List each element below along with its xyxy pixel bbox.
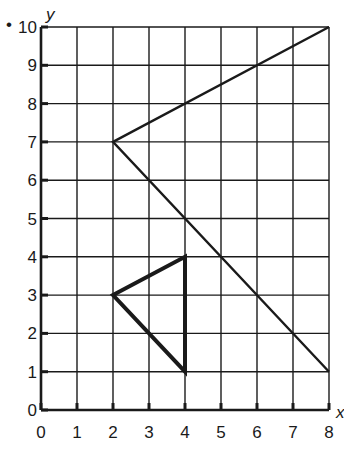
y-tick-label: 1 [28,363,37,382]
x-tick-label: 2 [108,423,117,442]
y-tick-label: 9 [28,56,37,75]
x-axis-label: x [335,403,344,422]
y-tick-label: 0 [28,401,37,420]
coordinate-grid-chart: 012345678012345678910 • y x [0,0,344,452]
y-tick-label: 5 [28,210,37,229]
x-tick-label: 4 [180,423,189,442]
y-tick-label: 6 [28,171,37,190]
tick-labels: 012345678012345678910 [18,18,334,442]
x-tick-label: 0 [36,423,45,442]
x-tick-label: 6 [252,423,261,442]
x-tick-label: 3 [144,423,153,442]
y-tick-label: 8 [28,95,37,114]
y-tick-label: 10 [18,18,37,37]
bullet-marker: • [6,15,12,34]
y-tick-label: 4 [28,248,37,267]
y-tick-label: 3 [28,286,37,305]
x-tick-label: 7 [288,423,297,442]
x-tick-label: 8 [324,423,333,442]
x-tick-label: 1 [72,423,81,442]
y-tick-label: 7 [28,133,37,152]
y-axis-label: y [45,5,56,24]
x-tick-label: 5 [216,423,225,442]
y-tick-label: 2 [28,324,37,343]
